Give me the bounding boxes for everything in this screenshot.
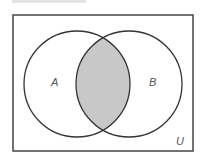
set-b-label: B [149,76,156,88]
set-a-label: A [50,76,58,88]
venn-diagram: A B U [0,0,203,157]
universe-label: U [176,135,184,147]
